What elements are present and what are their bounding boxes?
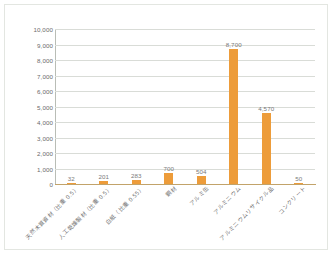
y-axis-tick-label: 7,000 — [9, 72, 53, 79]
x-axis-category-label: アルミニウム — [213, 186, 243, 216]
chart-frame: 10,0009,0008,0007,0006,0005,0004,0003,00… — [4, 4, 328, 250]
bar[interactable] — [262, 113, 271, 184]
bar-value-label: 4,570 — [258, 105, 274, 112]
bar-value-label: 50 — [295, 175, 302, 182]
x-axis-category-label: 天然木質資材（比重 0.5） — [25, 186, 80, 241]
bar-group[interactable]: 32 — [55, 175, 88, 184]
bar-group[interactable]: 504 — [185, 168, 218, 184]
bar[interactable] — [229, 49, 238, 184]
x-axis-category-label: アルミ缶 — [189, 186, 210, 207]
gridline — [55, 60, 315, 61]
bar-value-label: 32 — [68, 175, 75, 182]
y-axis-tick-label: 6,000 — [9, 88, 53, 95]
bar-value-label: 201 — [98, 173, 109, 180]
gridline — [55, 76, 315, 77]
bar-value-label: 700 — [163, 165, 174, 172]
bar-value-label: 8,700 — [226, 41, 242, 48]
y-axis-tick-labels: 10,0009,0008,0007,0006,0005,0004,0003,00… — [5, 29, 53, 184]
y-axis-tick-label: 0 — [9, 181, 53, 188]
y-axis-tick-label: 8,000 — [9, 57, 53, 64]
bar[interactable] — [197, 176, 206, 184]
bar[interactable] — [164, 173, 173, 184]
bar-group[interactable]: 4,570 — [250, 105, 283, 184]
plot-area: 322012837005048,7004,57050 — [55, 29, 315, 184]
bar-value-label: 504 — [196, 168, 207, 175]
y-axis-tick-label: 1,000 — [9, 165, 53, 172]
x-axis-category-label: 白紙（比重 0.55） — [105, 186, 145, 226]
gridline — [55, 29, 315, 30]
bar-group[interactable]: 201 — [88, 173, 121, 184]
y-axis-tick-label: 4,000 — [9, 119, 53, 126]
y-axis-tick-label: 3,000 — [9, 134, 53, 141]
bar-value-label: 283 — [131, 172, 142, 179]
x-axis-line — [55, 184, 316, 185]
bar-group[interactable]: 8,700 — [218, 41, 251, 184]
y-axis-tick-label: 9,000 — [9, 41, 53, 48]
x-axis-category-label: コンクリート — [278, 186, 308, 216]
gridline — [55, 45, 315, 46]
y-axis-tick-label: 10,000 — [9, 26, 53, 33]
x-axis-category-label: 鋼材 — [165, 186, 178, 199]
bar-group[interactable]: 50 — [283, 175, 316, 184]
y-axis-tick-label: 5,000 — [9, 103, 53, 110]
bar-group[interactable]: 283 — [120, 172, 153, 184]
y-axis-tick-label: 2,000 — [9, 150, 53, 157]
x-axis-category-labels: 天然木質資材（比重 0.5）人工乾燥製材（比重 0.5）白紙（比重 0.55）鋼… — [55, 186, 315, 256]
gridline — [55, 91, 315, 92]
bar-group[interactable]: 700 — [153, 165, 186, 184]
